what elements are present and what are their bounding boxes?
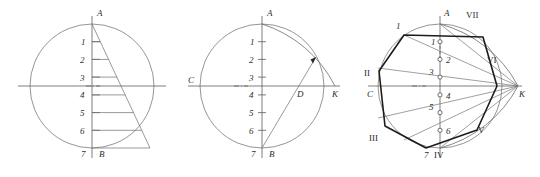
label-point-C-panel2: C: [188, 75, 195, 85]
node-3-panel3: [438, 75, 442, 79]
label-division-7-panel1: 7: [81, 149, 86, 159]
node-5-panel3: [438, 111, 442, 115]
label-division-4-panel2: 4: [249, 90, 254, 100]
label-vertex-VI: VI: [487, 55, 497, 65]
label-division-1-panel1: 1: [81, 37, 86, 47]
label-apex-A-panel3: A: [443, 8, 450, 18]
label-vertex-IV: IV: [434, 150, 444, 160]
label-division-1-panel3: 1: [396, 21, 401, 31]
label-division-7-panel3: 7: [424, 150, 429, 160]
panel-arc-and-chord: A B C D K 1 2 3 4 5 6 7: [188, 8, 340, 159]
panel-heptagon-completed: A C K 1 1 2 3 4 5 6 7 II III IV V VI VII: [364, 8, 526, 160]
label-division-1-panel2: 1: [250, 37, 255, 47]
label-vertex-VII: VII: [466, 10, 479, 20]
label-apex-B-panel2: B: [269, 149, 275, 159]
label-division-5-panel1: 5: [80, 108, 85, 118]
geometry-canvas: A B 1 2 3 4 5 6 7 A B C D K 1 2 3: [0, 0, 540, 177]
ray-K-to-7: [404, 86, 518, 140]
arc-A-to-K: [262, 24, 335, 86]
label-division-1b-panel3: 1: [431, 37, 436, 47]
label-division-6-panel3: 6: [446, 126, 451, 136]
label-division-7-panel2: 7: [251, 149, 256, 159]
label-division-3-panel3: 3: [428, 67, 434, 77]
label-apex-A-panel1: A: [96, 8, 103, 18]
label-division-5-panel2: 5: [249, 108, 254, 118]
node-1-panel3: [438, 40, 442, 44]
label-division-6-panel1: 6: [80, 126, 85, 136]
label-point-K-panel3: K: [518, 89, 526, 99]
arrow-head-ray: [311, 57, 317, 64]
node-4-panel3: [438, 93, 442, 97]
ray-K-to-A: [440, 24, 518, 86]
node-2-panel3: [438, 57, 442, 61]
panel-division-of-diameter: A B 1 2 3 4 5 6 7: [18, 8, 166, 159]
label-apex-A-panel2: A: [266, 8, 273, 18]
label-division-2-panel3: 2: [446, 55, 451, 65]
label-division-6-panel2: 6: [249, 126, 254, 136]
technical-drawing-sheet: A B 1 2 3 4 5 6 7 A B C D K 1 2 3: [0, 0, 540, 177]
label-point-K-panel2: K: [331, 89, 339, 99]
label-division-4-panel3: 4: [446, 91, 451, 101]
label-vertex-III: III: [369, 133, 378, 143]
label-vertex-II: II: [364, 68, 370, 78]
label-division-3-panel2: 3: [248, 73, 254, 83]
ray-B-through-D: [262, 57, 316, 148]
label-vertex-V: V: [478, 125, 485, 135]
label-division-5-panel3: 5: [429, 102, 434, 112]
label-division-2-panel1: 2: [80, 55, 85, 65]
label-point-D-panel2: D: [296, 89, 304, 99]
label-division-4-panel1: 4: [80, 90, 85, 100]
label-division-3-panel1: 3: [79, 73, 85, 83]
node-6-panel3: [438, 128, 442, 132]
label-apex-B-panel1: B: [99, 149, 105, 159]
label-division-2-panel2: 2: [249, 55, 254, 65]
label-point-C-panel3: C: [367, 89, 374, 99]
